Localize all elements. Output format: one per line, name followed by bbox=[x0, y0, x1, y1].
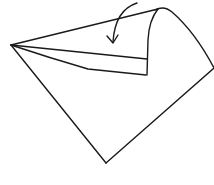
fold-arrow-icon bbox=[107, 3, 137, 43]
right-upper-edge bbox=[155, 8, 214, 68]
top-edge bbox=[11, 9, 158, 45]
left-lower-edge bbox=[11, 45, 106, 163]
paper-outline bbox=[11, 8, 214, 163]
flap-vertical-edge bbox=[147, 9, 158, 75]
right-lower-edge bbox=[106, 68, 214, 163]
arrow-head bbox=[107, 35, 118, 43]
folded-flap bbox=[11, 9, 158, 75]
origami-diagram bbox=[0, 0, 214, 185]
